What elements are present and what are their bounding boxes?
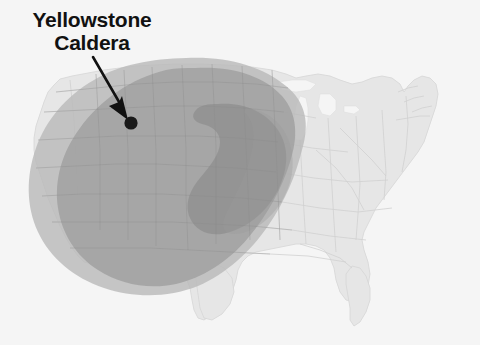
caldera-label-line-2: Caldera (22, 31, 162, 54)
caldera-location-dot (124, 116, 137, 129)
caldera-label-line-1: Yellowstone (22, 8, 162, 31)
ashfall-map-figure: Yellowstone Caldera (0, 0, 480, 345)
caldera-label: Yellowstone Caldera (22, 8, 162, 54)
